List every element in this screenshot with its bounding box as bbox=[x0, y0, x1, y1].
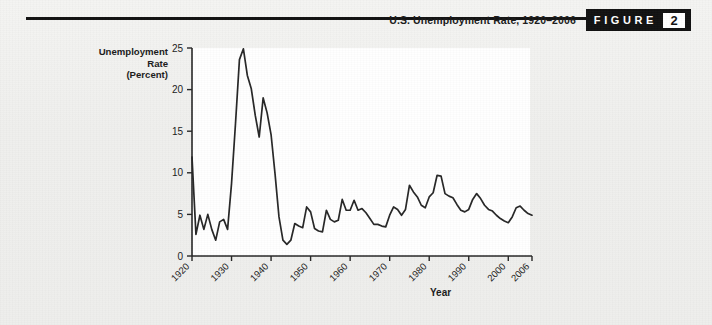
x-tick-label: 1920 bbox=[169, 261, 192, 284]
unemployment-data-line bbox=[192, 49, 532, 245]
figure-badge-word: FIGURE bbox=[594, 14, 663, 26]
figure-header: U.S. Unemployment Rate, 1920–2006 FIGURE… bbox=[389, 9, 691, 31]
y-tick-label: 20 bbox=[172, 84, 184, 95]
y-tick-label: 0 bbox=[177, 251, 183, 262]
x-tick-label: 1940 bbox=[248, 261, 271, 284]
x-tick-label: 1960 bbox=[327, 261, 350, 284]
x-tick-label: 1950 bbox=[287, 261, 310, 284]
y-tick-label: 25 bbox=[172, 43, 184, 54]
figure-page: U.S. Unemployment Rate, 1920–2006 FIGURE… bbox=[0, 0, 712, 325]
y-tick-label: 5 bbox=[177, 209, 183, 220]
chart-container: Unemployment Rate (Percent) Year 0510152… bbox=[0, 34, 712, 325]
y-tick-label: 15 bbox=[172, 126, 184, 137]
y-axis-ticks: 0510152025 bbox=[172, 43, 192, 262]
x-tick-label: 1970 bbox=[366, 261, 389, 284]
x-tick-label: 2006 bbox=[509, 261, 532, 284]
figure-number: 2 bbox=[663, 13, 685, 28]
x-tick-label: 1930 bbox=[208, 261, 231, 284]
unemployment-line-chart: 0510152025 19201930194019501960197019801… bbox=[0, 34, 712, 325]
y-tick-label: 10 bbox=[172, 167, 184, 178]
x-tick-label: 1990 bbox=[445, 261, 468, 284]
x-tick-label: 1980 bbox=[406, 261, 429, 284]
figure-badge: FIGURE 2 bbox=[586, 9, 691, 31]
x-axis-ticks: 1920193019401950196019701980199020002006 bbox=[169, 256, 532, 283]
x-tick-label: 2000 bbox=[485, 261, 508, 284]
figure-title: U.S. Unemployment Rate, 1920–2006 bbox=[389, 9, 586, 31]
